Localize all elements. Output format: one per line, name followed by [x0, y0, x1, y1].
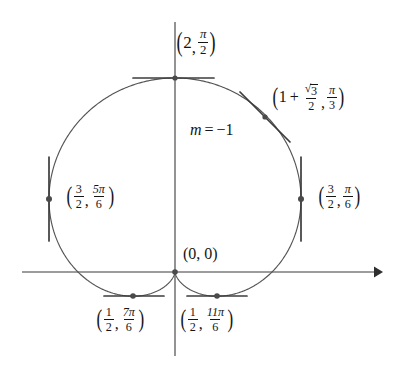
point-top	[172, 75, 177, 80]
label-br-r: 1 2	[188, 306, 198, 333]
slope-value: −1	[217, 122, 234, 138]
paren-close: )	[138, 309, 144, 330]
label-bl-theta: 7π 6	[121, 306, 137, 333]
square-root: √ 3	[305, 83, 318, 97]
label-point-eleven-pi-over-6: ( 1 2 , 11π 6 )	[180, 306, 234, 333]
paren-open: (	[66, 186, 72, 207]
label-origin: (0, 0)	[183, 246, 218, 262]
label-bl-r: 1 2	[104, 306, 114, 333]
comma: ,	[337, 193, 341, 210]
paren-open: (	[318, 186, 324, 207]
label-point-five-pi-over-6: ( 3 2 , 5π 6 )	[66, 183, 115, 210]
slope-variable: m	[190, 122, 202, 138]
cardioid-figure: ( 2 , π 2 ) ( 1 + √ 3 2	[0, 0, 397, 368]
label-point-pi-over-6: ( 3 2 , π 6 )	[318, 183, 360, 210]
comma: ,	[85, 193, 89, 210]
paren-close: )	[210, 31, 216, 53]
equals-sign: =	[205, 122, 214, 138]
label-pi3-lead: 1	[279, 89, 287, 105]
label-point-seven-pi-over-6: ( 1 2 , 7π 6 )	[96, 306, 145, 333]
paren-open: (	[96, 309, 102, 330]
paren-close: )	[339, 87, 345, 108]
label-right-r: 3 2	[326, 183, 336, 210]
comma: ,	[192, 39, 196, 57]
paren-close: )	[354, 186, 360, 207]
paren-close: )	[108, 186, 114, 207]
label-left-theta: 5π 6	[91, 183, 107, 210]
label-point-pi-over-3: ( 1 + √ 3 2 , π 3 )	[272, 82, 345, 112]
plus-sign: +	[290, 89, 299, 105]
label-br-theta: 11π 6	[205, 306, 226, 333]
label-left-r: 3 2	[74, 183, 84, 210]
paren-close: )	[228, 309, 234, 330]
point-pi-over-3	[262, 114, 267, 119]
paren-open: (	[272, 87, 278, 108]
comma: ,	[115, 316, 119, 333]
label-top-theta: π 2	[198, 28, 208, 57]
label-point-top: ( 2 , π 2 )	[176, 28, 217, 57]
paren-open: (	[180, 309, 186, 330]
comma: ,	[199, 316, 203, 333]
point-five-pi-over-6	[46, 196, 52, 202]
point-seven-pi-over-6	[130, 293, 136, 299]
comma: ,	[321, 95, 325, 112]
label-right-theta: π 6	[343, 183, 353, 210]
paren-open: (	[177, 31, 183, 53]
label-pi3-fraction: √ 3 2	[303, 82, 320, 112]
point-eleven-pi-over-6	[214, 293, 220, 299]
label-pi3-theta: π 3	[327, 84, 337, 111]
point-origin-cusp	[172, 269, 178, 275]
point-pi-over-6	[298, 196, 304, 202]
label-top-r: 2	[183, 34, 192, 51]
x-axis-arrowhead	[374, 267, 383, 278]
label-slope-annotation: m = −1	[190, 121, 234, 138]
